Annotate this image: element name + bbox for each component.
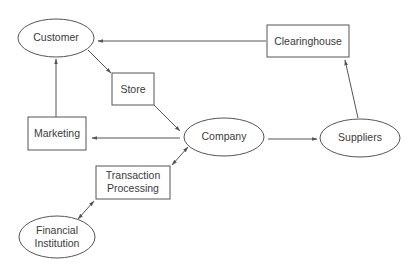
clearinghouse-label: Clearinghouse bbox=[274, 35, 342, 47]
node-marketing[interactable]: Marketing bbox=[28, 117, 86, 150]
transaction-processing-label-line1: Transaction bbox=[106, 169, 161, 181]
edge-store-to-company bbox=[154, 105, 180, 131]
flow-diagram: Customer Store Clearinghouse Marketing C… bbox=[0, 0, 414, 271]
store-label: Store bbox=[120, 83, 145, 95]
transaction-processing-label-line2: Processing bbox=[107, 182, 159, 194]
marketing-label: Marketing bbox=[34, 127, 80, 139]
node-company[interactable]: Company bbox=[184, 118, 264, 156]
suppliers-label: Suppliers bbox=[338, 131, 382, 143]
node-clearinghouse[interactable]: Clearinghouse bbox=[267, 25, 349, 57]
node-financial-institution[interactable]: Financial Institution bbox=[19, 216, 95, 258]
node-suppliers[interactable]: Suppliers bbox=[320, 119, 400, 157]
edge-company-transaction-processing bbox=[172, 147, 188, 165]
financial-institution-label-line1: Financial bbox=[36, 224, 78, 236]
financial-institution-label-line2: Institution bbox=[35, 237, 80, 249]
customer-label: Customer bbox=[33, 31, 79, 43]
edge-suppliers-to-clearinghouse bbox=[345, 60, 358, 118]
edge-transaction-processing-financial-institution bbox=[78, 201, 94, 219]
edge-customer-to-store bbox=[88, 50, 111, 73]
node-customer[interactable]: Customer bbox=[18, 19, 94, 57]
node-transaction-processing[interactable]: Transaction Processing bbox=[96, 166, 170, 199]
company-label: Company bbox=[202, 130, 248, 142]
node-store[interactable]: Store bbox=[112, 73, 154, 105]
